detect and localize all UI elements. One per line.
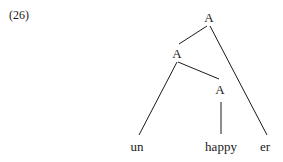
node-lower: A	[215, 82, 225, 97]
edge-inner-un	[139, 62, 177, 135]
node-inner: A	[172, 46, 182, 61]
edge-root-er	[210, 26, 267, 135]
syntax-tree: A A A un happy er	[0, 0, 283, 162]
node-root: A	[204, 10, 214, 25]
leaf-er: er	[260, 139, 271, 154]
edge-root-inner	[179, 26, 207, 44]
tree-edges	[139, 26, 267, 135]
leaf-un: un	[131, 139, 145, 154]
edge-inner-lower	[178, 62, 219, 79]
leaf-happy: happy	[205, 139, 237, 154]
